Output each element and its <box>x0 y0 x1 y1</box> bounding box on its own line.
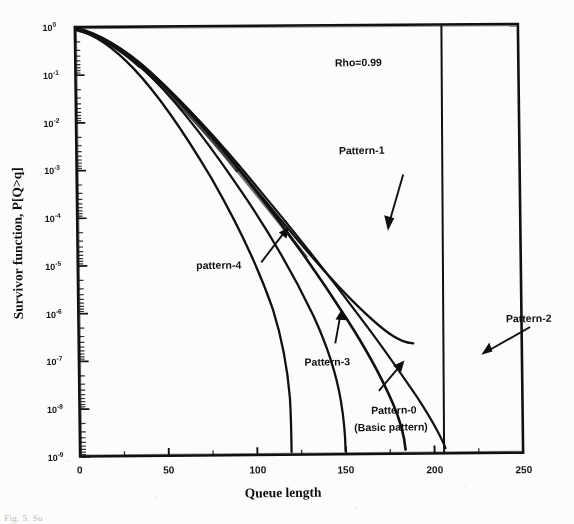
y-tick-3: 10-3 <box>44 164 60 176</box>
x-tick-250: 250 <box>515 464 532 475</box>
y-tick-8: 10-8 <box>47 403 63 415</box>
arrow-pattern-4 <box>261 227 289 262</box>
arrow-pattern-0 <box>378 361 404 391</box>
x-tick-50: 50 <box>163 464 175 475</box>
label-pattern-3: Pattern-3 <box>304 355 350 368</box>
label-pattern-4: pattern-4 <box>196 259 241 272</box>
x-tick-150: 150 <box>337 464 354 475</box>
arrow-pattern-1 <box>384 175 404 231</box>
y-tick-0: 100 <box>42 21 56 33</box>
y-tick-1: 10-1 <box>43 69 59 81</box>
y-tick-4: 10-4 <box>45 212 61 224</box>
y-tick-7: 10-7 <box>46 355 62 367</box>
x-axis-title: Queue length <box>245 485 323 501</box>
x-tick-200: 200 <box>426 464 443 475</box>
label-pattern-2: Pattern-2 <box>506 312 552 325</box>
x-tick-labels: 0 50 100 150 200 250 <box>77 459 533 481</box>
y-tick-6: 10-6 <box>46 308 62 320</box>
label-pattern-1: Pattern-1 <box>339 144 385 157</box>
x-tick-100: 100 <box>249 464 266 475</box>
curve-pattern-2 <box>75 24 445 452</box>
label-pattern-0: Pattern-0 <box>371 403 417 416</box>
curve-origin-blob <box>76 26 306 259</box>
chart-svg: 100 10-1 10-2 10-3 10-4 10-5 10-6 10-7 1… <box>0 0 574 524</box>
y-axis-title: Survivor function, P[Q>q] <box>9 167 26 319</box>
x-tick-0: 0 <box>77 465 83 476</box>
scanned-figure: 100 10-1 10-2 10-3 10-4 10-5 10-6 10-7 1… <box>0 0 574 524</box>
curve-pattern-0 <box>75 25 405 454</box>
curve-pattern-4 <box>75 26 291 455</box>
y-tick-9: 10-9 <box>48 451 64 463</box>
rho-annotation: Rho=0.99 <box>335 56 382 69</box>
y-tick-2: 10-2 <box>43 117 59 129</box>
label-pattern-0-sub: (Basic pattern) <box>354 420 428 433</box>
y-tick-5: 10-5 <box>45 260 61 272</box>
vertical-marker-line <box>439 26 447 453</box>
curve-pattern-1 <box>75 24 413 347</box>
y-tick-labels: 100 10-1 10-2 10-3 10-4 10-5 10-6 10-7 1… <box>42 21 64 463</box>
figure-caption: Fig. 5. Su <box>4 513 43 523</box>
curve-pattern-3 <box>75 25 345 454</box>
